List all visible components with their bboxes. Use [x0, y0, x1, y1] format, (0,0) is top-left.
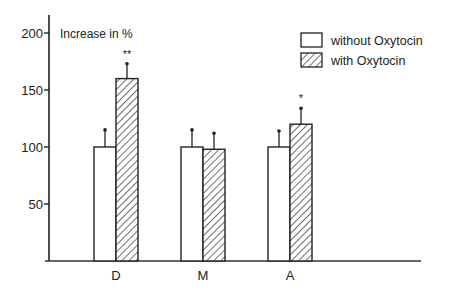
bar-with-oxytocin-A — [290, 124, 312, 261]
legend-swatch — [301, 33, 322, 47]
legend: without Oxytocinwith Oxytocin — [301, 33, 423, 68]
error-bar-cap — [190, 128, 194, 132]
x-tick-label: M — [198, 268, 209, 283]
bars: **DM*A — [94, 48, 312, 283]
error-bar-cap — [277, 129, 281, 133]
error-bar-cap — [299, 106, 303, 110]
legend-swatch — [301, 53, 322, 67]
y-tick-label: 50 — [29, 197, 43, 212]
bar-with-oxytocin-D — [116, 79, 138, 261]
bar-without-oxytocin-D — [94, 147, 116, 261]
x-tick-label: D — [111, 268, 120, 283]
significance-marker: * — [299, 92, 304, 104]
legend-label: without Oxytocin — [330, 34, 423, 48]
legend-label: with Oxytocin — [330, 54, 405, 68]
y-axis-label: Increase in % — [60, 27, 133, 41]
bar-chart: 50100150200Increase in % **DM*A without … — [0, 0, 453, 291]
error-bar-cap — [103, 128, 107, 132]
significance-marker: ** — [123, 48, 132, 60]
error-bar-cap — [125, 62, 129, 66]
y-tick-label: 200 — [21, 26, 43, 41]
y-tick-label: 150 — [21, 83, 43, 98]
bar-without-oxytocin-A — [268, 147, 290, 261]
bar-with-oxytocin-M — [203, 149, 225, 261]
error-bar-cap — [212, 132, 216, 136]
bar-without-oxytocin-M — [181, 147, 203, 261]
y-tick-label: 100 — [21, 140, 43, 155]
x-tick-label: A — [286, 268, 295, 283]
